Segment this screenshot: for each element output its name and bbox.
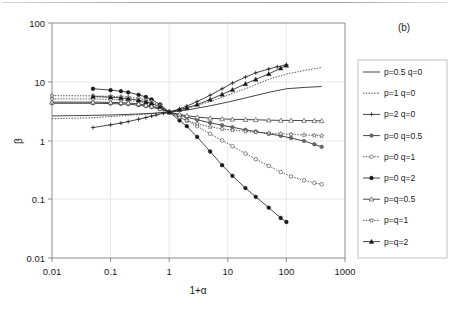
series-marker	[302, 179, 306, 183]
legend-label: p=q=0.5	[384, 194, 415, 204]
legend-label: p=1 q=0	[384, 88, 415, 98]
y-tick-label: 0.01	[27, 253, 46, 264]
x-tick-label: 0.1	[104, 266, 117, 277]
series-marker	[195, 135, 199, 139]
series-marker	[279, 170, 283, 174]
y-tick-label: 100	[29, 18, 45, 29]
legend-label: p=0 q=2	[384, 173, 415, 183]
series-marker	[109, 88, 113, 92]
y-tick-label: 0.1	[32, 194, 45, 205]
legend-marker-filled-circle-icon	[370, 176, 374, 180]
panel-label: (b)	[398, 22, 410, 33]
legend-marker-open-circle-icon	[370, 155, 374, 159]
series-marker	[220, 139, 224, 143]
x-tick-label: 100	[278, 266, 294, 277]
chart-svg: 0.01 0.1 1 10 100 1000 100 10 1 0.1 0.01…	[0, 0, 449, 312]
series-marker	[208, 132, 212, 136]
legend-label: p=2 q=0	[384, 109, 415, 119]
x-tick-labels: 0.01 0.1 1 10 100 1000	[43, 266, 356, 277]
series-marker	[267, 164, 271, 168]
x-tick-label: 10	[223, 266, 234, 277]
series-marker	[254, 157, 258, 161]
series-marker	[267, 206, 271, 210]
series-marker	[313, 143, 317, 147]
legend-label: p=0 q=0.5	[384, 131, 423, 141]
y-tick-label: 10	[34, 77, 45, 88]
series-marker	[119, 89, 123, 93]
x-tick-label: 0.01	[43, 266, 62, 277]
series-marker	[126, 90, 130, 94]
series-marker	[208, 150, 212, 154]
x-tick-label: 1	[167, 266, 172, 277]
figure-panel: 0.01 0.1 1 10 100 1000 100 10 1 0.1 0.01…	[0, 0, 449, 312]
series-marker	[285, 220, 289, 224]
series-marker	[231, 144, 235, 148]
series-marker	[91, 87, 95, 91]
legend-label: p=0 q=1	[384, 152, 415, 162]
x-axis-title: 1+α	[189, 285, 206, 296]
series-marker	[313, 181, 317, 185]
y-tick-label: 1	[40, 136, 45, 147]
legend-marker-filled-circle-gray-icon	[370, 134, 374, 138]
legend-label: p=q=2	[384, 237, 408, 247]
series-marker	[220, 163, 224, 167]
legend-label: p=0.5 q=0	[384, 67, 423, 77]
series-marker	[244, 152, 248, 156]
scan-artifact-rule	[2, 2, 447, 3]
y-axis-title: β	[13, 138, 24, 144]
series-marker	[302, 139, 306, 143]
y-tick-marks	[48, 23, 52, 258]
series-marker	[279, 216, 283, 220]
legend: p=0.5 q=0p=1 q=0p=2 q=0p=0 q=0.5p=0 q=1p…	[358, 60, 447, 258]
series-marker	[289, 136, 293, 140]
y-tick-labels: 100 10 1 0.1 0.01	[27, 18, 46, 264]
legend-label: p=q=1	[384, 215, 408, 225]
series-marker	[231, 174, 235, 178]
series-marker	[185, 124, 189, 128]
series-marker	[320, 182, 324, 186]
series-marker	[320, 145, 324, 149]
series-marker	[244, 186, 248, 190]
x-tick-marks	[52, 258, 345, 262]
series-marker	[289, 175, 293, 179]
x-tick-label: 1000	[334, 266, 355, 277]
series-marker	[254, 195, 258, 199]
